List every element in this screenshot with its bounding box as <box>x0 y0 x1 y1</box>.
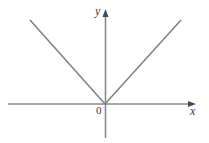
y-axis-arrowhead <box>103 9 109 17</box>
y-axis-label: y <box>95 5 100 17</box>
origin-label: 0 <box>96 105 102 116</box>
coordinate-plane-figure: y x 0 <box>0 0 209 143</box>
left-branch-line <box>30 20 105 104</box>
x-axis-label: x <box>190 105 195 117</box>
graph-canvas <box>0 0 209 143</box>
right-branch-line <box>105 20 181 104</box>
